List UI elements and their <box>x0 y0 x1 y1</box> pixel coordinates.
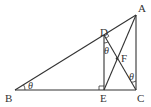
label-f: F <box>121 52 127 64</box>
segment-ab <box>15 15 136 90</box>
label-c: C <box>137 92 144 104</box>
right-angle-mark-e <box>99 86 104 90</box>
label-a: A <box>138 2 146 14</box>
angle-label-c: θ <box>129 71 134 82</box>
geometry-diagram: A B C D E F θ θ θ <box>0 0 151 107</box>
label-e: E <box>100 92 107 104</box>
angle-arc-d <box>104 42 108 43</box>
point-f-dot <box>116 57 119 60</box>
angle-label-b: θ <box>28 80 33 91</box>
angle-arc-b <box>24 85 26 90</box>
angle-label-d: θ <box>104 45 109 56</box>
label-d: D <box>100 26 108 38</box>
label-b: B <box>5 92 12 104</box>
